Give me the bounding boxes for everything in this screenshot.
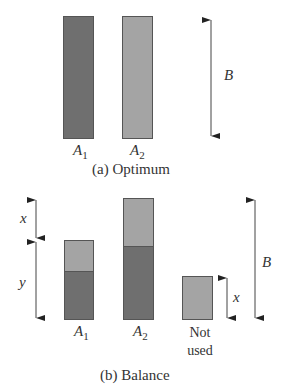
dimension-arrows <box>0 0 285 392</box>
